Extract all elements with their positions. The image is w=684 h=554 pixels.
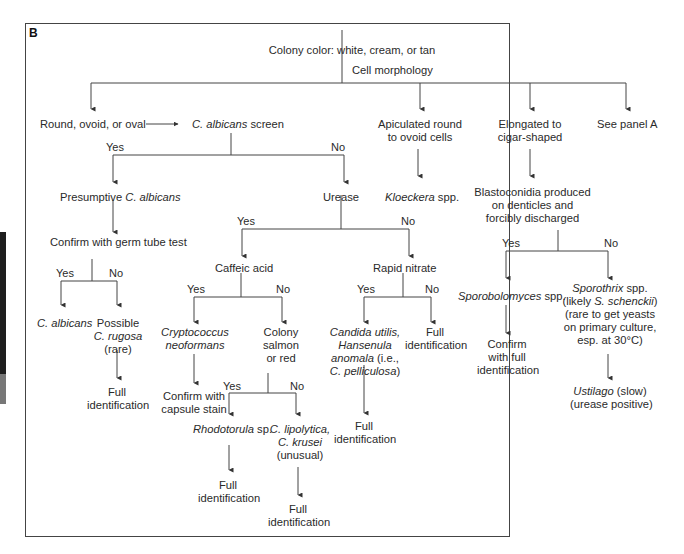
node-confirm-full-id: Confirmwith fullidentification (477, 338, 537, 377)
node-full-id-lipolytica: Fullidentification (268, 503, 328, 529)
label-no: No (290, 380, 304, 392)
node-rhodotorula: Rhodotorula sp. (193, 423, 272, 436)
node-rapid-nitrate: Rapid nitrate (373, 262, 436, 275)
node-candida-utilis: Candida utilis,Hansenulaanomala (i.e.,C.… (325, 326, 405, 378)
node-c-albicans-result: C. albicans (37, 317, 92, 330)
label-yes: Yes (223, 380, 241, 392)
node-apiculated: Apiculated roundto ovoid cells (370, 118, 470, 144)
label-yes: Yes (187, 283, 205, 295)
node-blastoconidia: Blastoconidia producedon denticles andfo… (470, 186, 595, 225)
node-round-ovoid: Round, ovoid, or oval (40, 118, 146, 131)
label-no: No (604, 237, 618, 249)
node-root: Colony color: white, cream, or tan (262, 44, 442, 57)
node-c-rugosa: PossibleC. rugosa(rare) (92, 317, 144, 356)
node-full-id-rhodotorula: Fullidentification (198, 479, 258, 505)
node-full-id-nitrate-no: Fullidentification (405, 326, 465, 352)
node-germ-tube: Confirm with germ tube test (50, 236, 187, 249)
node-urease: Urease (323, 191, 359, 204)
node-full-id-rugosa: Fullidentification (87, 386, 147, 412)
node-colony-salmon: Colonysalmonor red (255, 326, 307, 365)
label-no: No (276, 283, 290, 295)
node-elongated: Elongated tocigar-shaped (495, 118, 565, 144)
node-cell-morphology: Cell morphology (352, 64, 433, 77)
label-no: No (425, 283, 439, 295)
node-caffeic-acid: Caffeic acid (215, 262, 273, 275)
node-lipolytica: C. lipolytica,C. krusei(unusual) (265, 423, 335, 462)
node-albicans-screen: C. albicans screen (192, 118, 284, 131)
node-presumptive: Presumptive C. albicans (60, 191, 181, 204)
node-kloeckera: Kloeckera spp. (385, 191, 459, 204)
label-yes: Yes (502, 237, 520, 249)
node-sporothrix: Sporothrix spp.(likely S. schenckii)(rar… (560, 282, 660, 347)
flowchart-connectors (0, 0, 684, 554)
node-full-id-candida: Fullidentification (334, 420, 394, 446)
node-see-panel-a: See panel A (597, 118, 657, 131)
label-yes: Yes (106, 141, 124, 153)
label-yes: Yes (237, 215, 255, 227)
node-capsule-stain: Confirm withcapsule stain (158, 390, 230, 416)
label-no: No (401, 215, 415, 227)
label-yes: Yes (56, 267, 74, 279)
label-no: No (331, 141, 345, 153)
node-cryptococcus: Cryptococcusneoformans (160, 326, 230, 352)
label-no: No (109, 267, 123, 279)
label-yes: Yes (357, 283, 375, 295)
node-sporobolomyces: Sporobolomyces spp. (458, 290, 566, 303)
node-ustilago: Ustilago (slow)(urease positive) (570, 385, 650, 411)
